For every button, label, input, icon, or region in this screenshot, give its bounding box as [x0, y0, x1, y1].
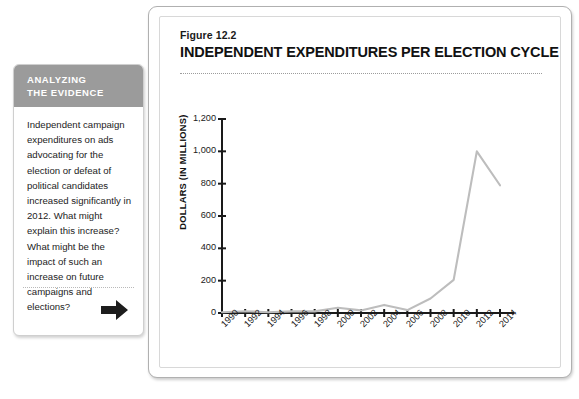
- y-tick-label: 1,000: [180, 145, 216, 155]
- x-tick-label: 2012: [474, 308, 496, 330]
- y-tick-label: 0: [180, 307, 216, 317]
- x-tick-label: 1996: [289, 308, 311, 330]
- title-divider-rule: [180, 73, 542, 74]
- y-tick-label: 800: [180, 178, 216, 188]
- x-tick-label: 2002: [358, 308, 380, 330]
- x-tick-label: 2000: [335, 308, 357, 330]
- y-tick-label: 600: [180, 210, 216, 220]
- x-tick-label: 2010: [451, 308, 473, 330]
- y-tick-label: 1,200: [180, 113, 216, 123]
- figure-inner-frame: Figure 12.2 INDEPENDENT EXPENDITURES PER…: [159, 16, 561, 368]
- x-tick-label: 1998: [312, 308, 334, 330]
- y-axis-title: DOLLARS (IN MILLIONS): [178, 97, 188, 247]
- x-tick-label: 1990: [219, 308, 241, 330]
- x-tick-label: 2008: [428, 308, 450, 330]
- figure-number-label: Figure 12.2: [180, 29, 237, 41]
- figure-card: Figure 12.2 INDEPENDENT EXPENDITURES PER…: [148, 6, 572, 378]
- x-tick-label: 2006: [404, 308, 426, 330]
- y-tick-label: 400: [180, 242, 216, 252]
- callout-header-line1: ANALYZING: [27, 73, 143, 86]
- x-tick-label: 1994: [265, 308, 287, 330]
- x-tick-label: 2004: [381, 308, 403, 330]
- figure-title: INDEPENDENT EXPENDITURES PER ELECTION CY…: [180, 44, 559, 60]
- callout-header: ANALYZING THE EVIDENCE: [14, 65, 143, 107]
- y-tick-label: 200: [180, 275, 216, 285]
- analyzing-the-evidence-callout: ANALYZING THE EVIDENCE Independent campa…: [13, 64, 144, 336]
- arrow-right-icon[interactable]: [101, 299, 129, 321]
- x-tick-label: 2014: [497, 308, 519, 330]
- callout-body-text: Independent campaign expenditures on ads…: [14, 107, 143, 315]
- callout-header-line2: THE EVIDENCE: [27, 86, 143, 99]
- callout-divider: [23, 287, 134, 288]
- x-tick-label: 1992: [242, 308, 264, 330]
